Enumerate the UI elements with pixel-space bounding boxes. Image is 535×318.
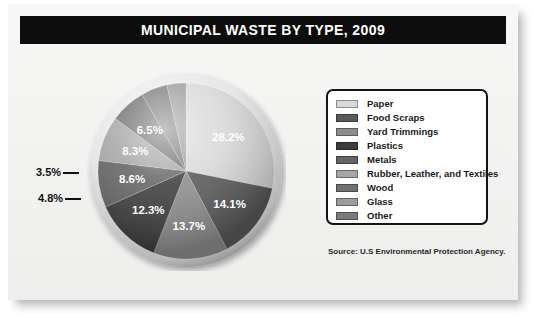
legend-item-label: Wood — [367, 183, 393, 193]
callout-value-other: 4.8% — [38, 192, 63, 204]
leader-line-glass — [63, 172, 79, 174]
leader-line-other — [65, 198, 81, 200]
legend-item-label: Food Scraps — [367, 113, 425, 123]
legend-item-label: Yard Trimmings — [367, 127, 438, 137]
legend-swatch — [336, 114, 358, 122]
legend-swatch — [336, 198, 358, 206]
source-note: Source: U.S Environmental Protection Age… — [328, 247, 505, 256]
legend-item: Rubber, Leather, and Textiles — [336, 167, 480, 181]
source-text: U.S Environmental Protection Agency. — [360, 247, 505, 256]
legend-item-label: Rubber, Leather, and Textiles — [367, 169, 498, 179]
pie-slice-label: 13.7% — [173, 220, 206, 232]
pie-slice-label: 12.3% — [132, 204, 165, 216]
callout-label-glass: 3.5% — [36, 166, 79, 178]
title-banner: MUNICIPAL WASTE BY TYPE, 2009 — [20, 16, 506, 44]
legend-item: Yard Trimmings — [336, 125, 480, 139]
legend-item-label: Plastics — [367, 141, 403, 151]
pie-slices — [98, 83, 274, 259]
pie-slice-label: 14.1% — [213, 198, 246, 210]
chart-page: MUNICIPAL WASTE BY TYPE, 2009 — [0, 0, 535, 318]
legend-item: Paper — [336, 97, 480, 111]
legend-item: Metals — [336, 153, 480, 167]
pie-slice-label: 8.6% — [119, 173, 145, 185]
legend-item: Other — [336, 209, 480, 223]
legend-item-label: Other — [367, 211, 392, 221]
legend-swatch — [336, 212, 358, 220]
legend-item: Plastics — [336, 139, 480, 153]
legend-swatch — [336, 142, 358, 150]
legend-swatch — [336, 100, 358, 108]
legend-swatch — [336, 170, 358, 178]
legend-item-label: Glass — [367, 197, 393, 207]
legend-item: Glass — [336, 195, 480, 209]
legend-swatch — [336, 156, 358, 164]
pie-chart: 28.2%14.1%13.7%12.3%8.6%8.3%6.5% — [86, 71, 286, 271]
pie-chart-svg: 28.2%14.1%13.7%12.3%8.6%8.3%6.5% — [86, 71, 286, 271]
callout-value-glass: 3.5% — [36, 166, 61, 178]
source-label: Source: — [328, 247, 358, 256]
legend-item-label: Paper — [367, 99, 393, 109]
page-title: MUNICIPAL WASTE BY TYPE, 2009 — [141, 22, 385, 38]
legend-item-label: Metals — [367, 155, 397, 165]
pie-slice-label: 8.3% — [122, 145, 148, 157]
pie-slice-label: 28.2% — [212, 131, 245, 143]
legend-item: Food Scraps — [336, 111, 480, 125]
legend-swatch — [336, 184, 358, 192]
pie-slice-label: 6.5% — [137, 124, 163, 136]
legend-swatch — [336, 128, 358, 136]
legend: PaperFood ScrapsYard TrimmingsPlasticsMe… — [326, 89, 488, 225]
page-panel: MUNICIPAL WASTE BY TYPE, 2009 — [8, 4, 518, 300]
legend-item: Wood — [336, 181, 480, 195]
callout-label-other: 4.8% — [38, 192, 81, 204]
